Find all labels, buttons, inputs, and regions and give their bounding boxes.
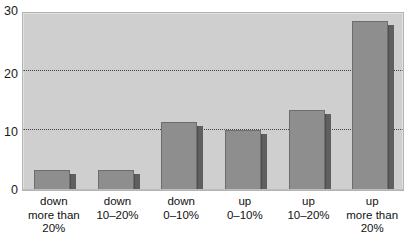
bar-side-face-2: [134, 174, 140, 190]
x-axis-label-line: more than: [340, 209, 404, 223]
x-axis-label-line: 20%: [22, 222, 86, 236]
bar-5: [289, 110, 331, 190]
x-axis-label-6: upmore than20%: [340, 195, 404, 236]
bar-side-face-4: [261, 134, 267, 190]
bar-6: [352, 21, 394, 190]
bar-side-face-5: [325, 114, 331, 190]
bar-4: [225, 130, 267, 190]
bar-front-face-3: [161, 122, 197, 190]
x-axis-label-line: 20%: [340, 222, 404, 236]
bar-front-face-4: [225, 130, 261, 190]
bar-front-face-6: [352, 21, 388, 190]
x-axis-label-3: down0–10%: [149, 195, 213, 222]
x-axis-label-line: 0–10%: [213, 209, 277, 223]
x-axis-label-line: up: [213, 195, 277, 209]
x-axis-label-5: up10–20%: [277, 195, 341, 222]
bar-front-face-1: [34, 170, 70, 190]
x-axis-label-1: downmore than20%: [22, 195, 86, 236]
bar-front-face-5: [289, 110, 325, 190]
plot-area: [22, 12, 404, 191]
x-axis-label-line: 0–10%: [149, 209, 213, 223]
y-axis-tick-30: 30: [0, 5, 18, 18]
gridline-10: [23, 129, 403, 130]
x-axis-label-line: down: [149, 195, 213, 209]
bar-side-face-3: [197, 126, 203, 190]
x-axis-label-line: 10–20%: [86, 209, 150, 223]
bar-1: [34, 170, 76, 190]
x-axis-label-line: 10–20%: [277, 209, 341, 223]
x-axis-labels: downmore than20%down10–20%down0–10%up0–1…: [22, 195, 404, 246]
bar-2: [98, 170, 140, 190]
x-axis-label-2: down10–20%: [86, 195, 150, 222]
bar-chart: 30 20 10 0 downmore than20%down10–20%dow…: [0, 0, 415, 246]
gridline-20: [23, 70, 403, 71]
x-axis-label-line: down: [22, 195, 86, 209]
y-axis-tick-0: 0: [0, 184, 18, 197]
x-axis-label-line: down: [86, 195, 150, 209]
x-axis-baseline: [23, 189, 403, 190]
y-axis-tick-20: 20: [0, 68, 18, 81]
y-axis-tick-10: 10: [0, 126, 18, 139]
bar-side-face-1: [70, 174, 76, 190]
bar-3: [161, 122, 203, 190]
x-axis-label-line: up: [340, 195, 404, 209]
bar-side-face-6: [388, 25, 394, 190]
x-axis-label-line: more than: [22, 209, 86, 223]
x-axis-label-4: up0–10%: [213, 195, 277, 222]
x-axis-label-line: up: [277, 195, 341, 209]
bar-front-face-2: [98, 170, 134, 190]
